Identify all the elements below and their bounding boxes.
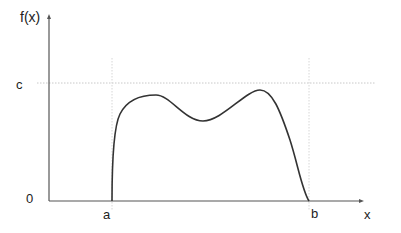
x-tick-b-label: b (311, 207, 318, 220)
x-axis-label: x (364, 208, 371, 221)
x-axis-arrow-icon (359, 199, 364, 203)
function-curve (112, 90, 309, 201)
y-tick-c-label: c (16, 78, 23, 91)
y-axis-arrow-icon (47, 14, 51, 19)
y-axis-label: f(x) (20, 10, 40, 24)
function-plot (0, 0, 401, 233)
y-tick-origin-label: 0 (26, 192, 33, 205)
x-tick-a-label: a (103, 208, 110, 221)
